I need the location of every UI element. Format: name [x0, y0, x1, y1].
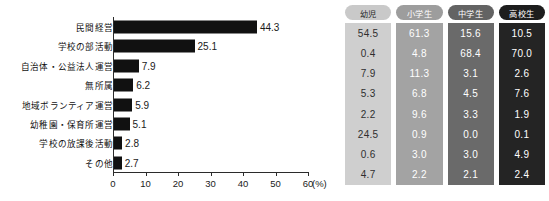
x-axis-tick-label: 30: [205, 178, 216, 189]
x-axis-tick-label: 40: [238, 178, 249, 189]
table-cell: 2.2: [345, 104, 391, 124]
bar-chart: 民間経営44.3学校の部活動25.1自治体・公益法人運営7.9無所属6.2地域ボ…: [0, 0, 340, 201]
data-table: 幼児54.50.47.95.32.224.50.64.7小学生61.34.811…: [345, 5, 545, 185]
x-axis-tick: [178, 172, 179, 176]
table-column: 小学生61.34.811.36.89.60.93.02.2: [396, 5, 442, 185]
bar-row: 学校の放課後活動2.8: [0, 133, 340, 153]
table-column: 高校生10.570.02.67.61.90.14.92.4: [499, 5, 545, 185]
table-column-body: 15.668.43.14.53.30.03.02.1: [448, 23, 494, 185]
bar: [113, 59, 139, 72]
bar-value-label: 44.3: [257, 22, 279, 33]
bar-category-label: 地域ボランティア運営: [22, 99, 113, 111]
x-axis-tick-label: 20: [173, 178, 184, 189]
bar-value-label: 5.1: [130, 119, 147, 130]
table-cell: 11.3: [396, 64, 442, 84]
figure-root: 民間経営44.3学校の部活動25.1自治体・公益法人運営7.9無所属6.2地域ボ…: [0, 0, 549, 201]
bar-value-label: 6.2: [133, 80, 150, 91]
table-cell: 4.5: [448, 84, 494, 104]
bar-category-label: 学校の部活動: [58, 40, 113, 52]
table-cell: 0.0: [448, 124, 494, 144]
y-axis-line: [113, 17, 114, 172]
table-column-body: 10.570.02.67.61.90.14.92.4: [499, 23, 545, 185]
table-cell: 6.8: [396, 84, 442, 104]
table-cell: 54.5: [345, 23, 391, 43]
table-cell: 4.9: [499, 145, 545, 165]
bar: [113, 98, 132, 111]
table-cell: 3.0: [448, 145, 494, 165]
x-axis-tick: [308, 172, 309, 176]
table-cell: 3.0: [396, 145, 442, 165]
table-cell: 2.4: [499, 165, 545, 185]
x-axis-tick: [211, 172, 212, 176]
table-cell: 68.4: [448, 43, 494, 63]
table-column: 幼児54.50.47.95.32.224.50.64.7: [345, 5, 391, 185]
x-axis-tick-label: 0: [110, 178, 115, 189]
table-cell: 61.3: [396, 23, 442, 43]
bar: [113, 79, 133, 92]
table-column-header: 幼児: [345, 5, 391, 20]
bar-category-label: その他: [85, 157, 113, 169]
bar: [113, 156, 122, 169]
bar-value-label: 2.7: [122, 157, 139, 168]
table-cell: 15.6: [448, 23, 494, 43]
table-cell: 4.7: [345, 165, 391, 185]
table-column-header: 小学生: [396, 5, 442, 20]
x-axis-tick: [146, 172, 147, 176]
table-column-header: 高校生: [499, 5, 545, 20]
x-axis-tick-label: 50: [270, 178, 281, 189]
table-cell: 3.1: [448, 64, 494, 84]
bar-row: 幼稚園・保育所運営5.1: [0, 114, 340, 134]
x-axis-tick: [113, 172, 114, 176]
bar-row: その他2.7: [0, 153, 340, 173]
x-axis-tick: [243, 172, 244, 176]
bar-value-label: 5.9: [132, 99, 149, 110]
bar: [113, 118, 130, 131]
table-cell: 0.1: [499, 124, 545, 144]
table-cell: 9.6: [396, 104, 442, 124]
table-column-body: 61.34.811.36.89.60.93.02.2: [396, 23, 442, 185]
table-column-header: 中学生: [448, 5, 494, 20]
bar: [113, 40, 195, 53]
table-cell: 5.3: [345, 84, 391, 104]
bar-value-label: 7.9: [139, 60, 156, 71]
table-cell: 2.2: [396, 165, 442, 185]
bar-category-label: 幼稚園・保育所運営: [30, 118, 113, 130]
bar-row: 学校の部活動25.1: [0, 36, 340, 56]
bar-category-label: 自治体・公益法人運営: [21, 60, 113, 72]
bar-category-label: 学校の放課後活動: [39, 137, 113, 149]
bar: [113, 21, 257, 34]
table-cell: 70.0: [499, 43, 545, 63]
bar-category-label: 民間経営: [76, 21, 113, 33]
bar-row: 民間経営44.3: [0, 17, 340, 37]
bar-row: 無所属6.2: [0, 75, 340, 95]
x-axis-tick-label: 10: [140, 178, 151, 189]
x-axis-tick: [276, 172, 277, 176]
table-cell: 1.9: [499, 104, 545, 124]
bar-row: 自治体・公益法人運営7.9: [0, 56, 340, 76]
table-cell: 4.8: [396, 43, 442, 63]
bar-value-label: 2.8: [122, 138, 139, 149]
table-column: 中学生15.668.43.14.53.30.03.02.1: [448, 5, 494, 185]
table-cell: 0.9: [396, 124, 442, 144]
table-cell: 0.4: [345, 43, 391, 63]
x-axis-unit-label: (%): [312, 178, 327, 189]
table-column-body: 54.50.47.95.32.224.50.64.7: [345, 23, 391, 185]
bar-row: 地域ボランティア運営5.9: [0, 95, 340, 115]
table-cell: 3.3: [448, 104, 494, 124]
bar-category-label: 無所属: [85, 79, 113, 91]
table-cell: 7.6: [499, 84, 545, 104]
table-cell: 10.5: [499, 23, 545, 43]
table-cell: 7.9: [345, 64, 391, 84]
table-cell: 2.1: [448, 165, 494, 185]
table-cell: 0.6: [345, 145, 391, 165]
table-cell: 24.5: [345, 124, 391, 144]
bar: [113, 137, 122, 150]
bar-value-label: 25.1: [195, 41, 217, 52]
table-cell: 2.6: [499, 64, 545, 84]
